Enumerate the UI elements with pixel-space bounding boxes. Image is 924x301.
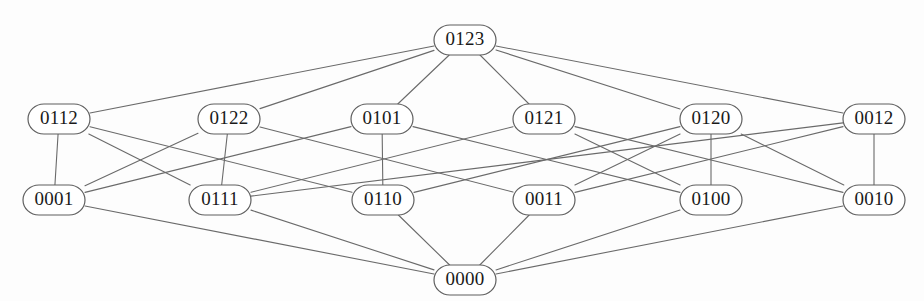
node-label: 0010 — [855, 188, 894, 209]
graph-edge — [496, 46, 843, 113]
graph-node[interactable]: 0011 — [513, 185, 575, 215]
graph-edge — [398, 215, 449, 265]
node-label: 0100 — [692, 188, 731, 209]
graph-edge — [251, 210, 434, 270]
graph-node[interactable]: 0123 — [434, 25, 496, 55]
graph-edge — [55, 134, 58, 185]
graph-node[interactable]: 0100 — [680, 185, 742, 215]
node-label: 0121 — [525, 107, 564, 128]
graph-node[interactable]: 0101 — [351, 104, 413, 134]
node-label: 0120 — [692, 107, 731, 128]
graph-edge — [90, 46, 434, 113]
node-label: 0123 — [446, 28, 485, 49]
node-label: 0122 — [210, 107, 249, 128]
graph-edge — [260, 50, 434, 108]
graph-node[interactable]: 0112 — [28, 104, 90, 134]
graph-edge — [398, 55, 449, 104]
graph-node[interactable]: 0110 — [352, 185, 414, 215]
graph-node[interactable]: 0121 — [513, 104, 575, 134]
lattice-svg: 0123011201220101012101200012000101110110… — [0, 0, 924, 301]
node-label: 0012 — [855, 107, 894, 128]
graph-edge — [496, 210, 680, 270]
node-label: 0112 — [40, 107, 78, 128]
node-label: 0001 — [35, 188, 74, 209]
graph-node[interactable]: 0012 — [843, 104, 905, 134]
graph-edge — [480, 55, 529, 104]
graph-node[interactable]: 0111 — [189, 185, 251, 215]
graph-node[interactable]: 0000 — [434, 265, 496, 295]
graph-node[interactable]: 0120 — [680, 104, 742, 134]
graph-edge — [480, 215, 529, 265]
edge-layer — [55, 46, 874, 274]
node-layer: 0123011201220101012101200012000101110110… — [23, 25, 905, 295]
graph-node[interactable]: 0010 — [843, 185, 905, 215]
graph-node[interactable]: 0122 — [198, 104, 260, 134]
graph-node[interactable]: 0001 — [23, 185, 85, 215]
node-label: 0110 — [364, 188, 402, 209]
graph-edge — [85, 206, 434, 274]
node-label: 0000 — [446, 268, 485, 289]
graph-edge — [496, 206, 843, 274]
graph-edge — [741, 134, 844, 185]
node-label: 0111 — [201, 188, 238, 209]
node-label: 0011 — [525, 188, 563, 209]
graph-edge — [496, 50, 680, 109]
node-label: 0101 — [363, 107, 402, 128]
lattice-diagram: 0123011201220101012101200012000101110110… — [0, 0, 924, 301]
